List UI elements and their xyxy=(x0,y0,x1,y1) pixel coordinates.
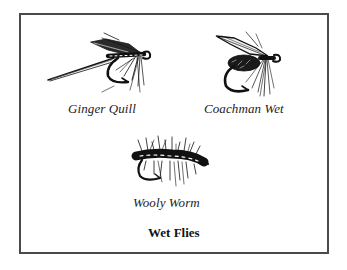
caption-ginger-quill: Ginger Quill xyxy=(68,102,136,116)
coachman-wet-icon xyxy=(212,30,287,98)
wooly-worm-icon xyxy=(132,134,210,190)
ginger-quill-icon xyxy=(44,30,159,96)
wooly-worm-fly-illustration xyxy=(132,134,210,190)
figure-title: Wet Flies xyxy=(148,226,200,240)
caption-wooly-worm: Wooly Worm xyxy=(133,196,200,210)
caption-coachman-wet: Coachman Wet xyxy=(204,102,284,116)
coachman-wet-fly-illustration xyxy=(212,30,287,98)
ginger-quill-fly-illustration xyxy=(44,30,159,96)
